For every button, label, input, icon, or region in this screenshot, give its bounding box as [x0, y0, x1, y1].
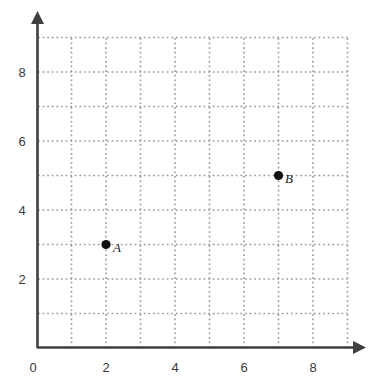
x-axis — [37, 341, 366, 354]
point-marker-b[interactable] — [274, 171, 283, 180]
point-label-b: B — [285, 171, 293, 186]
x-tick-label-6: 6 — [240, 360, 247, 375]
point-label-a: A — [112, 240, 121, 255]
data-point-b[interactable]: B — [274, 171, 293, 186]
data-point-a[interactable]: A — [101, 240, 121, 255]
y-tick-label-8: 8 — [18, 65, 25, 80]
coordinate-plane-svg: 0 2 4 6 8 2 4 6 8 A B — [0, 0, 376, 388]
y-axis-arrow-icon — [31, 11, 44, 24]
x-tick-label-8: 8 — [309, 360, 316, 375]
y-axis — [31, 11, 44, 348]
x-tick-label-0: 0 — [29, 360, 36, 375]
x-axis-arrow-icon — [353, 341, 366, 354]
y-axis-tick-labels: 2 4 6 8 — [18, 65, 25, 287]
x-tick-label-4: 4 — [171, 360, 178, 375]
point-marker-a[interactable] — [101, 240, 110, 249]
vertical-gridlines — [72, 38, 348, 347]
x-tick-label-2: 2 — [102, 360, 109, 375]
y-tick-label-4: 4 — [18, 203, 25, 218]
horizontal-gridlines — [38, 38, 348, 314]
y-tick-label-6: 6 — [18, 134, 25, 149]
coordinate-plane-figure: 0 2 4 6 8 2 4 6 8 A B — [0, 0, 376, 388]
x-axis-tick-labels: 0 2 4 6 8 — [29, 360, 316, 375]
y-tick-label-2: 2 — [18, 272, 25, 287]
